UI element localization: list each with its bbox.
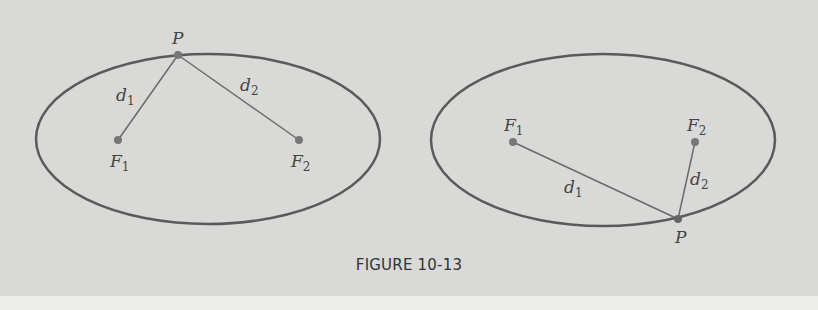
right-label-f1: F1 xyxy=(503,115,523,138)
left-label-f2: F2 xyxy=(290,151,310,174)
left-label-d1: d1 xyxy=(116,85,135,108)
right-ellipse xyxy=(431,54,775,226)
right-label-d2: d2 xyxy=(690,169,709,192)
left-ellipse-diagram: P F1 F2 d1 d2 xyxy=(36,28,380,224)
right-label-p: P xyxy=(674,227,687,247)
right-point-p xyxy=(674,215,682,223)
figure-caption: FIGURE 10-13 xyxy=(0,256,818,274)
left-segment-d2 xyxy=(178,55,299,140)
right-segment-d1 xyxy=(513,142,678,219)
left-focus-f2-point xyxy=(295,136,303,144)
left-label-p: P xyxy=(171,28,184,48)
left-label-d2: d2 xyxy=(240,75,259,98)
right-focus-f1-point xyxy=(509,138,517,146)
left-point-p xyxy=(174,51,182,59)
right-label-d1: d1 xyxy=(564,177,583,200)
left-label-f1: F1 xyxy=(109,151,129,174)
right-ellipse-diagram: F1 F2 P d1 d2 xyxy=(431,54,775,247)
right-focus-f2-point xyxy=(691,138,699,146)
left-focus-f1-point xyxy=(114,136,122,144)
right-label-f2: F2 xyxy=(686,115,706,138)
left-ellipse xyxy=(36,54,380,224)
